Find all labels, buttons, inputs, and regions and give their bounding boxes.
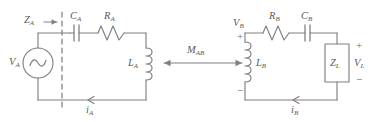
label-v-b: VB	[233, 18, 244, 30]
label-l-b: LB	[256, 58, 266, 70]
label-i-b: iB	[291, 105, 298, 117]
polarity-minus-v-l: −	[356, 74, 362, 85]
label-m-ab: MAB	[187, 45, 204, 57]
label-v-l: VL	[354, 58, 364, 70]
circuit-diagram-figure: ZA VA CA RA LA iA MAB VB + − RB CB LB ZL…	[0, 0, 373, 122]
circuit-schematic-svg	[0, 0, 373, 122]
label-i-a: iA	[86, 105, 93, 117]
inductor-a-coil	[146, 48, 152, 80]
polarity-plus-v-l: +	[356, 40, 362, 51]
mutual-coupling-arrowhead-right	[236, 60, 243, 66]
polarity-plus-v-b: +	[237, 31, 243, 42]
label-l-a: LA	[128, 58, 138, 70]
mutual-coupling-arrowhead-left	[164, 60, 171, 66]
inductor-b-coil	[245, 42, 251, 82]
label-c-b: CB	[301, 11, 312, 23]
label-z-a: ZA	[24, 15, 34, 27]
polarity-minus-v-b: −	[237, 85, 243, 96]
label-z-l: ZL	[330, 58, 340, 70]
resistor-a-zigzag	[98, 26, 124, 40]
label-v-a: VA	[9, 57, 20, 69]
label-r-b: RB	[269, 11, 280, 23]
ac-source-a-sine	[30, 60, 46, 66]
z-a-arrow-head	[52, 19, 58, 24]
resistor-b-zigzag	[263, 26, 289, 40]
label-c-a: CA	[70, 11, 81, 23]
label-r-a: RA	[104, 11, 115, 23]
